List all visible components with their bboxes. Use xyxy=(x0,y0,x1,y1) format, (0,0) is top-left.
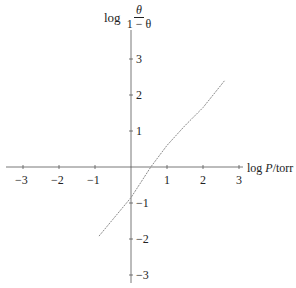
y-tick-label: 3 xyxy=(136,53,142,65)
y-tick-label: 2 xyxy=(136,89,142,101)
x-tick-label: 1 xyxy=(164,174,170,186)
y-tick-label: 1 xyxy=(136,125,142,137)
y-tick-label: −1 xyxy=(136,197,149,209)
x-tick-label: −2 xyxy=(51,174,64,186)
y-label-fraction: θ 1 − θ xyxy=(125,4,154,31)
y-tick-label: −2 xyxy=(136,233,149,245)
x-tick-label: 3 xyxy=(236,174,242,186)
y-label-prefix: log xyxy=(104,10,121,26)
x-tick-label: −1 xyxy=(87,174,100,186)
x-tick-label: 2 xyxy=(200,174,206,186)
y-tick-label: −3 xyxy=(136,269,149,281)
x-label-var: P xyxy=(265,161,272,175)
y-label-denominator: 1 − θ xyxy=(125,18,154,31)
y-label-numerator: θ xyxy=(134,4,144,18)
y-axis-label: log θ 1 − θ xyxy=(104,4,153,31)
x-label-unit: /torr xyxy=(273,161,294,175)
x-axis-label: log P/torr xyxy=(247,161,293,176)
x-label-prefix: log xyxy=(247,161,265,175)
x-tick-label: −3 xyxy=(15,174,28,186)
data-line xyxy=(99,81,225,237)
